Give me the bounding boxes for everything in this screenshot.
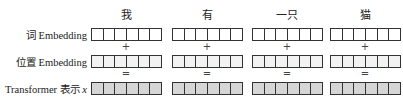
position-embedding-label: 位置 Embedding	[16, 54, 87, 69]
plus-operator-4: +	[330, 41, 400, 52]
equals-operator-3: =	[252, 68, 322, 79]
position-embedding-vector-2	[172, 55, 243, 68]
plus-operator-2: +	[172, 41, 242, 52]
word-embedding-vector-1	[91, 28, 162, 41]
token-label-1: 我	[91, 6, 161, 22]
transformer-representation-label: Transformer 表示 x	[5, 81, 87, 96]
label-text: Transformer 表示	[5, 84, 82, 95]
position-embedding-vector-1	[91, 55, 162, 68]
position-embedding-vector-3	[252, 55, 323, 68]
plus-operator-1: +	[91, 41, 161, 52]
token-label-2: 有	[172, 6, 242, 22]
transformer-output-vector-3	[252, 82, 323, 95]
transformer-output-vector-1	[91, 82, 162, 95]
equals-operator-2: =	[172, 68, 242, 79]
word-embedding-label: 词 Embedding	[26, 27, 87, 42]
word-embedding-vector-2	[172, 28, 243, 41]
token-label-3: 一只	[252, 6, 322, 22]
token-label-4: 猫	[330, 6, 400, 22]
transformer-output-vector-4	[330, 82, 401, 95]
plus-operator-3: +	[252, 41, 322, 52]
word-embedding-vector-3	[252, 28, 323, 41]
position-embedding-vector-4	[330, 55, 401, 68]
equals-operator-4: =	[330, 68, 400, 79]
variable-x: x	[82, 84, 87, 95]
transformer-output-vector-2	[172, 82, 243, 95]
word-embedding-vector-4	[330, 28, 401, 41]
equals-operator-1: =	[91, 68, 161, 79]
